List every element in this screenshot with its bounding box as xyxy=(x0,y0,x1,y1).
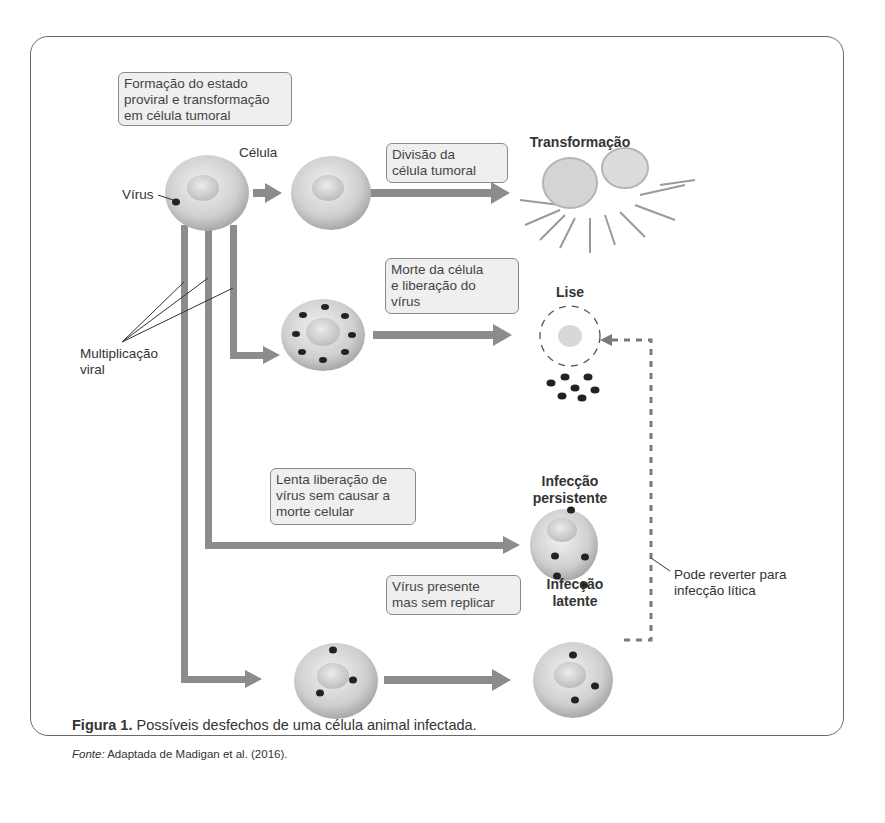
outcome-lysis: Lise xyxy=(540,284,600,301)
revert-arrowhead xyxy=(600,334,612,346)
outcome-latent: Infecção latente xyxy=(530,576,620,610)
label-cell: Célula xyxy=(239,145,277,161)
tumor-cells-graphic xyxy=(520,148,695,253)
lysis-graphic xyxy=(540,306,600,402)
second-cell-graphic xyxy=(291,156,371,230)
label-box-proviral: Formação do estado proviral e transforma… xyxy=(118,72,292,126)
label-virus: Vírus xyxy=(122,187,154,203)
lytic-cell-graphic xyxy=(281,299,365,371)
label-revert: Pode reverter para infecção lítica xyxy=(674,567,787,599)
label-box-slow-release: Lenta liberação de vírus sem causar a mo… xyxy=(270,468,416,525)
source-text: Adaptada de Madigan et al. (2016). xyxy=(105,748,288,760)
latent-cell-graphic xyxy=(533,642,613,718)
bottom-cell-graphic xyxy=(294,643,378,719)
label-box-present: Vírus presente mas sem replicar xyxy=(386,575,521,615)
outcome-persistent: Infecção persistente xyxy=(520,473,620,507)
figure-caption: Figura 1. Possíveis desfechos de uma cél… xyxy=(72,717,477,733)
outcome-transformation: Transformação xyxy=(520,134,640,151)
label-box-death: Morte da célula e liberação do vírus xyxy=(385,258,519,314)
initial-cell-graphic xyxy=(158,155,249,231)
figure-source: Fonte: Adaptada de Madigan et al. (2016)… xyxy=(72,748,287,760)
caption-text: Possíveis desfechos de uma célula animal… xyxy=(132,717,476,733)
source-label: Fonte: xyxy=(72,748,105,760)
multiplication-pointers xyxy=(122,278,233,342)
label-multiplication: Multiplicação viral xyxy=(80,346,158,378)
caption-label: Figura 1. xyxy=(72,717,132,733)
label-box-division: Divisão da célula tumoral xyxy=(386,143,508,183)
revert-pointer xyxy=(651,558,670,571)
